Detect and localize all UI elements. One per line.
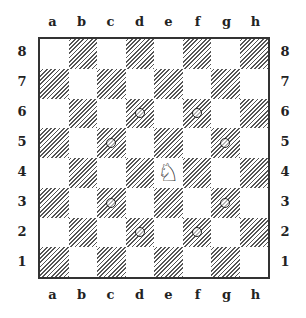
square-f3[interactable] (183, 188, 212, 218)
rank-label-3: 3 (12, 187, 32, 217)
circle-marker-icon (135, 108, 145, 118)
square-b7[interactable] (69, 69, 98, 99)
square-f1[interactable] (183, 247, 212, 277)
square-c7[interactable] (97, 69, 126, 99)
square-e4[interactable]: ♘ (154, 158, 183, 188)
square-a6[interactable] (40, 99, 69, 129)
circle-marker-icon (192, 108, 202, 118)
square-g8[interactable] (211, 39, 240, 69)
square-b4[interactable] (69, 158, 98, 188)
square-c3[interactable] (97, 188, 126, 218)
file-label-h: h (241, 287, 270, 302)
square-d3[interactable] (126, 188, 155, 218)
square-b2[interactable] (69, 218, 98, 248)
square-b5[interactable] (69, 128, 98, 158)
circle-marker-icon (135, 227, 145, 237)
rank-label-5: 5 (275, 127, 295, 157)
square-a5[interactable] (40, 128, 69, 158)
square-d6[interactable] (126, 99, 155, 129)
square-g2[interactable] (211, 218, 240, 248)
file-label-b: b (67, 287, 96, 302)
square-d1[interactable] (126, 247, 155, 277)
square-h2[interactable] (240, 218, 269, 248)
file-label-f: f (183, 287, 212, 302)
file-label-c: c (96, 14, 125, 29)
file-label-g: g (212, 14, 241, 29)
square-c5[interactable] (97, 128, 126, 158)
rank-label-6: 6 (12, 97, 32, 127)
square-b1[interactable] (69, 247, 98, 277)
square-c1[interactable] (97, 247, 126, 277)
square-e1[interactable] (154, 247, 183, 277)
file-label-a: a (38, 287, 67, 302)
square-h6[interactable] (240, 99, 269, 129)
square-f8[interactable] (183, 39, 212, 69)
square-d2[interactable] (126, 218, 155, 248)
file-label-d: d (125, 287, 154, 302)
rank-label-8: 8 (12, 37, 32, 67)
square-e2[interactable] (154, 218, 183, 248)
square-f4[interactable] (183, 158, 212, 188)
square-g5[interactable] (211, 128, 240, 158)
square-d4[interactable] (126, 158, 155, 188)
square-c2[interactable] (97, 218, 126, 248)
square-d7[interactable] (126, 69, 155, 99)
square-e5[interactable] (154, 128, 183, 158)
square-h8[interactable] (240, 39, 269, 69)
rank-label-7: 7 (12, 67, 32, 97)
square-g1[interactable] (211, 247, 240, 277)
rank-label-6: 6 (275, 97, 295, 127)
square-g6[interactable] (211, 99, 240, 129)
file-label-c: c (96, 287, 125, 302)
circle-marker-icon (106, 138, 116, 148)
square-b8[interactable] (69, 39, 98, 69)
square-e6[interactable] (154, 99, 183, 129)
circle-marker-icon (192, 227, 202, 237)
circle-marker-icon (220, 138, 230, 148)
rank-label-1: 1 (12, 247, 32, 277)
white-knight-icon[interactable]: ♘ (154, 158, 183, 188)
square-a1[interactable] (40, 247, 69, 277)
square-e7[interactable] (154, 69, 183, 99)
chess-board: ♘ (38, 37, 270, 279)
square-h4[interactable] (240, 158, 269, 188)
square-h7[interactable] (240, 69, 269, 99)
square-b6[interactable] (69, 99, 98, 129)
square-f7[interactable] (183, 69, 212, 99)
square-e3[interactable] (154, 188, 183, 218)
square-a3[interactable] (40, 188, 69, 218)
circle-marker-icon (106, 198, 116, 208)
rank-label-2: 2 (12, 217, 32, 247)
square-h1[interactable] (240, 247, 269, 277)
rank-label-7: 7 (275, 67, 295, 97)
rank-label-3: 3 (275, 187, 295, 217)
rank-label-4: 4 (275, 157, 295, 187)
square-c8[interactable] (97, 39, 126, 69)
square-g7[interactable] (211, 69, 240, 99)
file-label-g: g (212, 287, 241, 302)
square-a8[interactable] (40, 39, 69, 69)
square-a4[interactable] (40, 158, 69, 188)
square-f2[interactable] (183, 218, 212, 248)
square-h5[interactable] (240, 128, 269, 158)
square-d5[interactable] (126, 128, 155, 158)
circle-marker-icon (220, 198, 230, 208)
rank-label-5: 5 (12, 127, 32, 157)
rank-label-8: 8 (275, 37, 295, 67)
square-a7[interactable] (40, 69, 69, 99)
square-f5[interactable] (183, 128, 212, 158)
square-b3[interactable] (69, 188, 98, 218)
square-g3[interactable] (211, 188, 240, 218)
rank-label-2: 2 (275, 217, 295, 247)
square-c6[interactable] (97, 99, 126, 129)
file-label-d: d (125, 14, 154, 29)
square-e8[interactable] (154, 39, 183, 69)
square-h3[interactable] (240, 188, 269, 218)
square-c4[interactable] (97, 158, 126, 188)
square-g4[interactable] (211, 158, 240, 188)
rank-label-1: 1 (275, 247, 295, 277)
square-a2[interactable] (40, 218, 69, 248)
file-label-e: e (154, 287, 183, 302)
square-f6[interactable] (183, 99, 212, 129)
square-d8[interactable] (126, 39, 155, 69)
